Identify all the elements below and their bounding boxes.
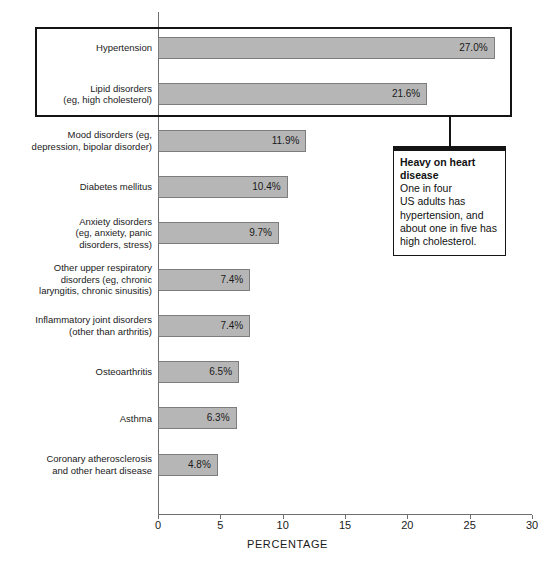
bar-category-label: Other upper respiratory disorders (eg, c… xyxy=(0,262,152,297)
x-axis-title: PERCENTAGE xyxy=(0,538,551,550)
bar-category-label: Lipid disorders (eg, high cholesterol) xyxy=(0,83,152,106)
callout-box: Heavy on heart disease One in four US ad… xyxy=(393,146,506,256)
x-tick-label-20: 20 xyxy=(401,519,413,531)
x-tick-label-0: 0 xyxy=(155,519,161,531)
bar-category-label: Inflammatory joint disorders (other than… xyxy=(0,314,152,337)
bar-category-label: Asthma xyxy=(0,413,152,425)
bar-category-label: Hypertension xyxy=(0,42,152,54)
x-tick-label-25: 25 xyxy=(464,519,476,531)
bar-category-label: Osteoarthritis xyxy=(0,366,152,378)
bar-category-label: Coronary atherosclerosis and other heart… xyxy=(0,453,152,476)
bar-category-label: Mood disorders (eg, depression, bipolar … xyxy=(0,129,152,152)
callout-body: One in four US adults has hypertension, … xyxy=(400,182,499,248)
bar-value-label: 27.0% xyxy=(158,37,488,59)
bar-value-label: 7.4% xyxy=(158,315,243,337)
bar-chart: 051015202530 Hypertension27.0%Lipid diso… xyxy=(0,0,551,563)
bar-value-label: 6.3% xyxy=(158,407,230,429)
bar-category-label: Diabetes mellitus xyxy=(0,181,152,193)
x-tick-label-10: 10 xyxy=(277,519,289,531)
callout-connector-line xyxy=(449,117,451,147)
bar-category-label: Anxiety disorders (eg, anxiety, panic di… xyxy=(0,216,152,251)
x-tick-label-15: 15 xyxy=(339,519,351,531)
bar-value-label: 7.4% xyxy=(158,269,243,291)
callout-title: Heavy on heart disease xyxy=(400,156,499,181)
bar-value-label: 10.4% xyxy=(158,176,281,198)
x-axis-title-text: PERCENTAGE xyxy=(247,538,328,550)
bar-value-label: 9.7% xyxy=(158,222,272,244)
bar-value-label: 6.5% xyxy=(158,361,232,383)
bar-value-label: 4.8% xyxy=(158,454,211,476)
x-tick-label-5: 5 xyxy=(217,519,223,531)
x-tick-label-30: 30 xyxy=(526,519,538,531)
bar-value-label: 11.9% xyxy=(158,130,299,152)
bar-value-label: 21.6% xyxy=(158,83,420,105)
